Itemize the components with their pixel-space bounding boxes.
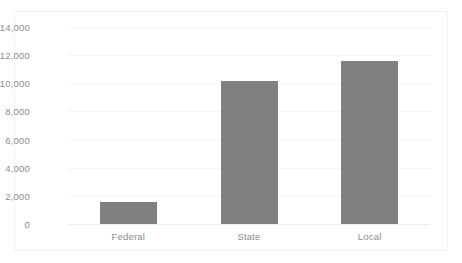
gridline-14000 (68, 27, 430, 28)
y-axis-tick-label: 14,000 (0, 22, 30, 33)
gridline-12000 (68, 55, 430, 56)
bar-federal[interactable] (100, 202, 157, 224)
bar-local[interactable] (341, 61, 398, 224)
y-axis-tick-label: 0 (0, 219, 30, 230)
y-axis-tick-label: 2,000 (0, 190, 30, 201)
y-axis-tick-label: 8,000 (0, 106, 30, 117)
y-axis-tick-label: 12,000 (0, 50, 30, 61)
y-axis-tick-label: 6,000 (0, 134, 30, 145)
x-axis-tick-label-state: State (237, 231, 260, 242)
x-axis-tick-label-federal: Federal (112, 231, 146, 242)
plot-area: 02,0004,0006,0008,00010,00012,00014,000 (68, 27, 430, 224)
bar-state[interactable] (221, 81, 278, 224)
gridline-0 (68, 224, 430, 225)
x-axis-tick-label-local: Local (358, 231, 382, 242)
y-axis-tick-label: 10,000 (0, 78, 30, 89)
y-axis-tick-label: 4,000 (0, 162, 30, 173)
bar-chart-figure: 02,0004,0006,0008,00010,00012,00014,000 … (0, 0, 462, 263)
